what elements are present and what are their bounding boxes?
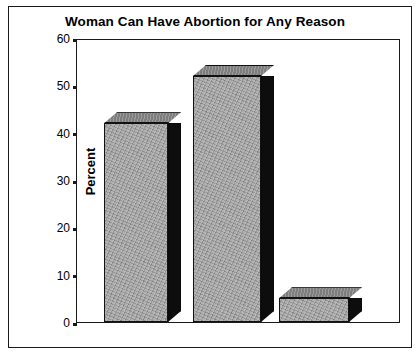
y-axis-tick-mark [73,181,77,184]
y-axis-tick-label: 40 [57,127,70,141]
bar-front-face [104,123,168,322]
bar [104,112,181,322]
y-axis-tick-mark [73,133,77,136]
y-axis-tick-label: 30 [57,174,70,188]
bar-top-face [279,287,362,298]
bar-front-face [193,76,261,322]
bar-side-face [261,76,274,322]
bar [193,65,274,322]
y-axis-tick-mark [73,86,77,89]
bar-side-face [168,123,181,322]
bar-top-face [104,112,181,123]
y-axis-label: Percent [83,102,98,242]
y-axis-tick-label: 20 [57,221,70,235]
bar-top-face [193,65,274,76]
y-axis-tick-label: 0 [63,316,70,330]
bar-front-face [279,298,349,322]
y-axis-tick-label: 60 [57,32,70,46]
chart-figure: Woman Can Have Abortion for Any Reason P… [0,0,419,354]
bar-side-face [349,298,362,322]
y-axis-tick-label: 10 [57,269,70,283]
bar [279,287,362,322]
y-axis-tick-mark [73,228,77,231]
y-axis-tick-mark [73,39,77,42]
y-axis-tick-label: 50 [57,79,70,93]
chart-title: Woman Can Have Abortion for Any Reason [40,14,370,29]
plot-area: Percent 0102030405060 YESNODK [76,39,400,323]
y-axis-tick-mark [73,323,77,326]
y-axis-tick-mark [73,275,77,278]
